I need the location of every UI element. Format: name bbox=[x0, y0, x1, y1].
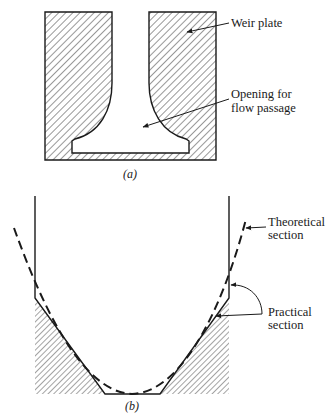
theoretical-label-line1: Theoretical bbox=[268, 215, 325, 229]
weir-plate-label: Weir plate bbox=[231, 16, 283, 30]
practical-leader-arc bbox=[231, 285, 262, 314]
weir-plate-body bbox=[45, 12, 216, 160]
practical-label-line1: Practical bbox=[268, 305, 312, 319]
opening-label-line1: Opening for bbox=[231, 87, 293, 101]
theoretical-leader bbox=[246, 227, 266, 228]
opening-label-line2: flow passage bbox=[231, 101, 296, 115]
theoretical-label-line2: section bbox=[268, 228, 304, 242]
figure-b: Theoretical section Practical section (b… bbox=[14, 196, 325, 413]
practical-label-line2: section bbox=[268, 318, 304, 332]
weir-diagram: Weir plate Opening for flow passage (a) … bbox=[0, 0, 332, 418]
figure-a: Weir plate Opening for flow passage (a) bbox=[45, 12, 296, 181]
figure-a-caption: (a) bbox=[123, 167, 137, 181]
figure-b-caption: (b) bbox=[125, 399, 139, 413]
